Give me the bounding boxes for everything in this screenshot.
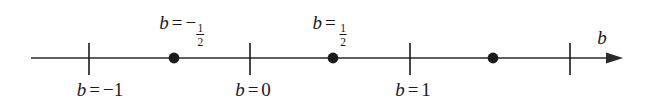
label-value: 0: [261, 79, 271, 100]
label-sign: −: [185, 12, 196, 33]
point-b-three-half: [488, 53, 499, 64]
label-b-equals-zero: b=0: [235, 80, 271, 99]
fraction-denominator: 2: [197, 35, 205, 48]
label-relation: =: [169, 12, 186, 33]
label-relation: =: [245, 79, 262, 100]
axis-variable-label: b: [597, 28, 607, 47]
label-b-equals-minus-one-half: b=−12: [159, 13, 205, 48]
label-relation: =: [322, 12, 339, 33]
fraction-numerator: 1: [197, 22, 205, 36]
label-variable: b: [395, 79, 405, 100]
fraction-one-half: 12: [339, 22, 347, 49]
fraction-numerator: 1: [339, 22, 347, 36]
label-value: −1: [103, 79, 123, 100]
label-variable: b: [313, 12, 323, 33]
label-variable: b: [77, 79, 87, 100]
point-b-minus-half: [169, 53, 180, 64]
label-b-equals-one-half: b=12: [313, 13, 348, 48]
label-b-equals-minus-one: b=−1: [77, 80, 123, 99]
point-b-half: [328, 53, 339, 64]
label-variable: b: [235, 79, 245, 100]
number-line-figure: b b=−12 b=12 b=−1 b=0 b=1: [0, 0, 654, 111]
fraction-one-half: 12: [197, 22, 205, 49]
axis-arrow-icon: [606, 53, 623, 64]
label-value: 1: [421, 79, 431, 100]
label-relation: =: [405, 79, 422, 100]
label-relation: =: [86, 79, 103, 100]
fraction-denominator: 2: [339, 35, 347, 48]
label-b-equals-one: b=1: [395, 80, 431, 99]
label-variable: b: [159, 12, 169, 33]
